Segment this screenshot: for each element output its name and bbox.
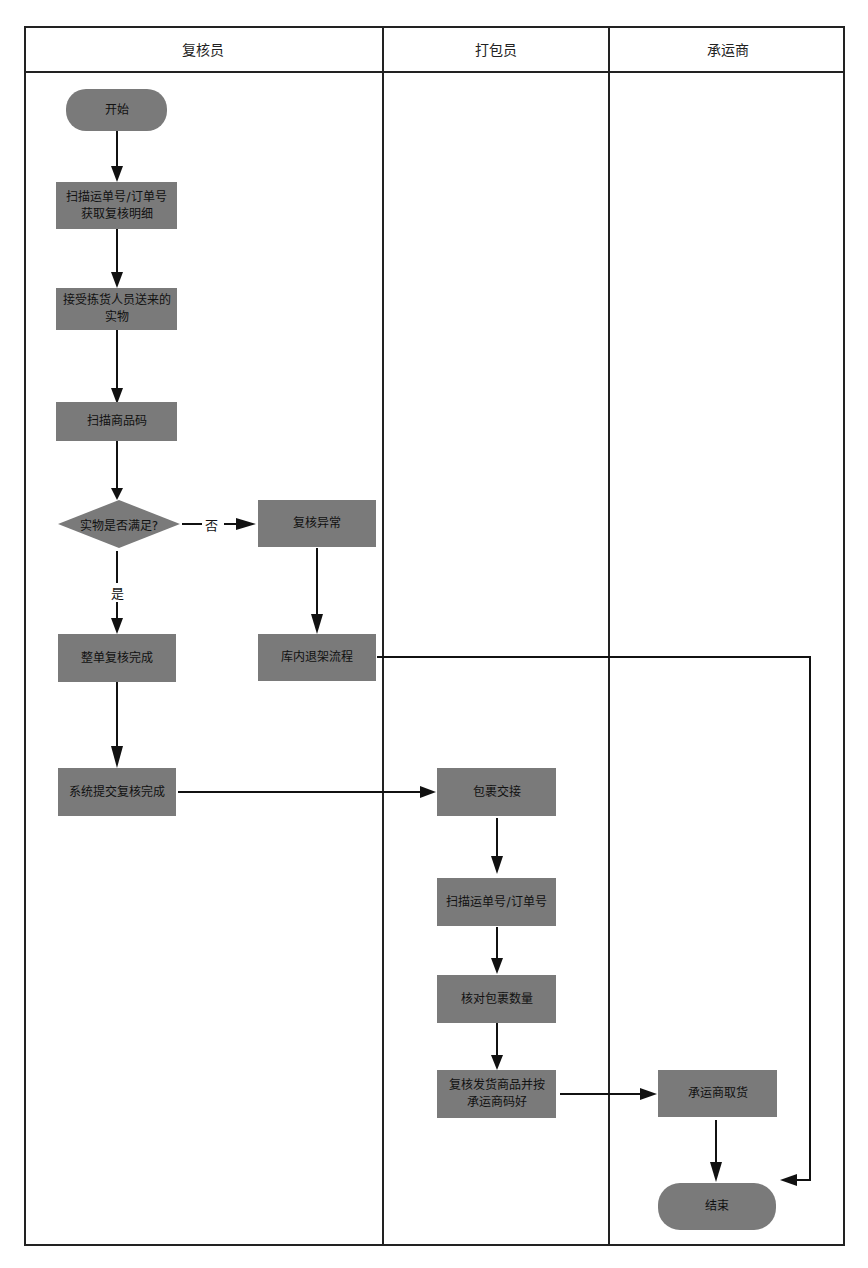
system-submit-node: 系统提交复核完成	[58, 768, 176, 816]
return-shelf-node: 库内退架流程	[258, 634, 376, 681]
decision-node: 实物是否满足?	[58, 500, 180, 548]
review-exception-node: 复核异常	[258, 500, 376, 547]
decision-label: 实物是否满足?	[58, 500, 180, 548]
edge-label-no: 否	[203, 515, 220, 534]
review-ship-goods-node: 复核发货商品并按承运商码好	[437, 1070, 556, 1118]
start-node: 开始	[66, 89, 167, 131]
scan-waybill-node: 扫描运单号/订单号获取复核明细	[56, 182, 177, 229]
receive-goods-node: 接受拣货人员送来的实物	[56, 288, 177, 330]
order-review-done-node: 整单复核完成	[58, 634, 176, 682]
package-handover-node: 包裹交接	[437, 768, 556, 816]
end-node: 结束	[658, 1183, 776, 1230]
edge-label-yes: 是	[109, 583, 126, 602]
check-package-count-node: 核对包裹数量	[437, 975, 556, 1023]
scan-product-node: 扫描商品码	[56, 402, 177, 441]
carrier-pickup-node: 承运商取货	[658, 1070, 777, 1117]
scan-waybill-packer-node: 扫描运单号/订单号	[437, 878, 556, 926]
